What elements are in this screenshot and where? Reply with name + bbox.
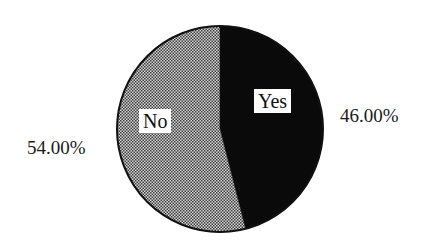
no-percent-label: 54.00% — [27, 138, 86, 157]
yes-slice-label: Yes — [254, 89, 291, 113]
yes-percent-label: 46.00% — [340, 106, 399, 125]
no-slice-label: No — [139, 109, 171, 133]
